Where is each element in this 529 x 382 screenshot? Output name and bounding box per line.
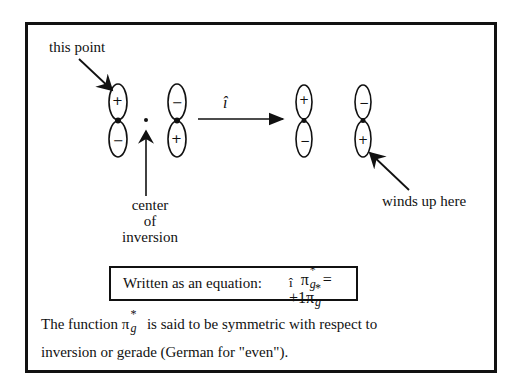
equation-rhs-sub: g [315,295,321,310]
equation-prefix: Written as an equation: [123,275,262,292]
sign-minus: − [113,132,124,149]
sign-minus: − [359,95,369,112]
sign-plus: + [299,92,309,109]
equation-lhs-sup: * [310,263,316,278]
center-of-inversion-dot [144,118,148,122]
sign-minus: − [300,133,310,150]
equation-math: î π*g = +1π*g [289,271,356,307]
sign-minus: − [172,94,183,111]
equation-equals: = [323,271,332,288]
equation-operator: î [289,275,293,290]
this-point-arrow [79,59,112,90]
this-point-label: this point [49,39,105,56]
paragraph-text: The function [41,316,118,332]
paragraph-symbol: π [122,316,130,332]
paragraph-sup: * [130,307,136,322]
center-label-line1: center [120,197,180,213]
sign-plus: + [171,130,182,147]
paragraph-line-1: The function π*g is said to be symmetric… [41,315,377,333]
sign-plus: + [358,132,368,149]
equation-coefficient: +1 [289,289,306,306]
equation-lhs-symbol: π [301,271,309,288]
center-label-line3: inversion [120,229,180,245]
equation-box: Written as an equation: î π*g = +1π*g [109,266,358,301]
paragraph-text: is said to be symmetric with respect to [147,316,377,332]
center-label-line2: of [120,213,180,229]
winds-up-arrow [370,153,409,190]
equation-rhs-sup: * [315,281,321,296]
inversion-operator-label: î [223,94,227,111]
sign-plus: + [112,92,123,109]
winds-up-here-label: winds up here [382,193,466,210]
paragraph-line-2: inversion or gerade (German for "even"). [41,344,288,361]
center-of-inversion-label: center of inversion [120,197,180,245]
paragraph-sub: g [130,321,136,336]
